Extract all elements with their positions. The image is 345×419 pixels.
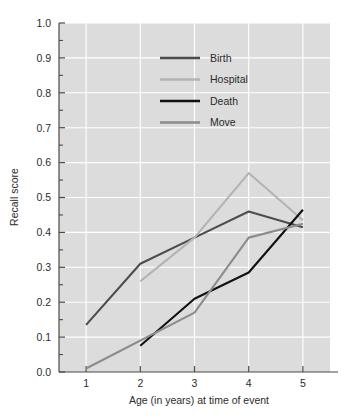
y-tick-label: 0.0 — [36, 366, 51, 378]
recall-score-line-chart: 0.00.10.20.30.40.50.60.70.80.91.0 12345 … — [0, 0, 345, 419]
x-axis-title: Age (in years) at time of event — [129, 394, 269, 406]
legend-label-birth: Birth — [210, 52, 232, 64]
legend-label-death: Death — [210, 95, 238, 107]
x-tick-label: 1 — [83, 377, 89, 389]
y-tick-label: 0.1 — [36, 331, 51, 343]
x-tick-label: 4 — [246, 377, 252, 389]
y-tick-label: 0.6 — [36, 156, 51, 168]
y-tick-label: 0.3 — [36, 261, 51, 273]
x-tick-label: 3 — [192, 377, 198, 389]
legend-label-hospital: Hospital — [210, 73, 248, 85]
y-tick-label: 0.7 — [36, 122, 51, 134]
y-tick-label: 0.9 — [36, 52, 51, 64]
y-tick-label: 1.0 — [36, 17, 51, 29]
legend-label-move: Move — [210, 116, 236, 128]
x-tick-label: 2 — [137, 377, 143, 389]
y-tick-label: 0.8 — [36, 87, 51, 99]
y-axis-title: Recall score — [8, 168, 20, 226]
chart-page: 0.00.10.20.30.40.50.60.70.80.91.0 12345 … — [0, 0, 345, 419]
y-tick-label: 0.2 — [36, 296, 51, 308]
x-tick-label: 5 — [300, 377, 306, 389]
y-tick-label: 0.5 — [36, 191, 51, 203]
y-tick-label: 0.4 — [36, 226, 51, 238]
